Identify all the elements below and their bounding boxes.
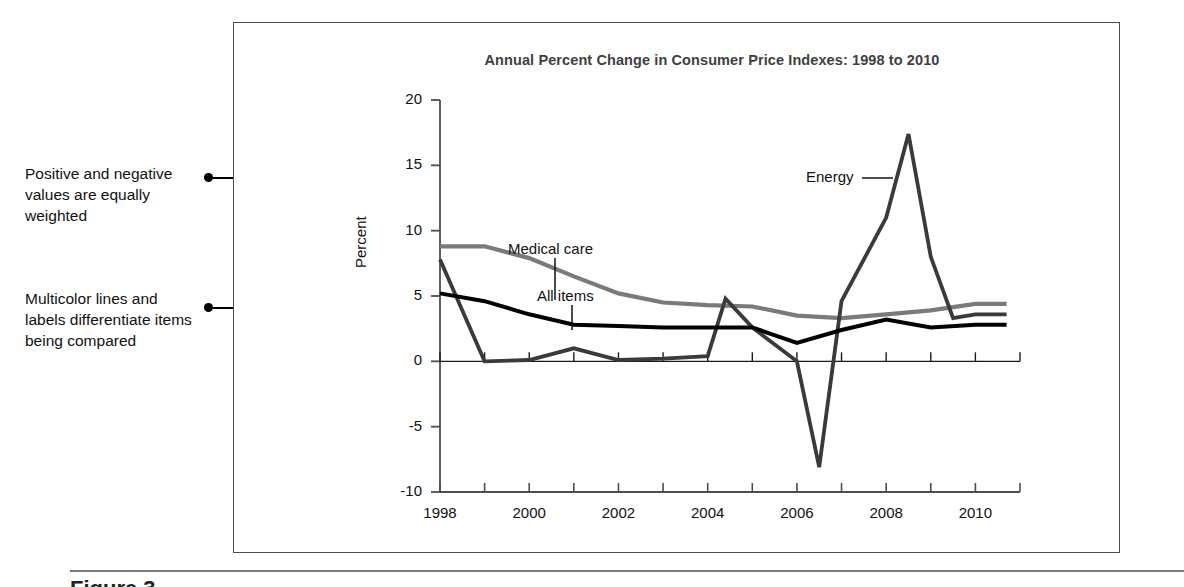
- x-tick-label: 2004: [678, 504, 738, 521]
- annotation-positive-negative: Positive and negative values are equally…: [25, 163, 200, 226]
- x-tick-label: 2008: [856, 504, 916, 521]
- series-label-medical-care: Medical care: [508, 240, 593, 257]
- y-tick-label: -10: [384, 482, 422, 499]
- figure-frame: [233, 22, 1120, 553]
- y-tick-label: 0: [384, 351, 422, 368]
- x-tick-label: 2006: [767, 504, 827, 521]
- y-tick-label: 10: [384, 221, 422, 238]
- series-label-energy: Energy: [806, 168, 854, 185]
- figure-caption: Figure 3.: [70, 578, 162, 587]
- chart-title: Annual Percent Change in Consumer Price …: [432, 52, 992, 68]
- y-tick-label: 5: [384, 286, 422, 303]
- x-tick-label: 2000: [499, 504, 559, 521]
- x-tick-label: 2002: [588, 504, 648, 521]
- y-tick-label: 20: [384, 90, 422, 107]
- bottom-divider: [70, 570, 1184, 572]
- series-label-all-items: All items: [537, 287, 594, 304]
- annotation-multicolor-lines: Multicolor lines and labels differentiat…: [25, 288, 200, 351]
- y-tick-label: -5: [384, 417, 422, 434]
- x-tick-label: 1998: [410, 504, 470, 521]
- y-axis-title: Percent: [352, 216, 369, 268]
- y-tick-label: 15: [384, 155, 422, 172]
- x-tick-label: 2010: [945, 504, 1005, 521]
